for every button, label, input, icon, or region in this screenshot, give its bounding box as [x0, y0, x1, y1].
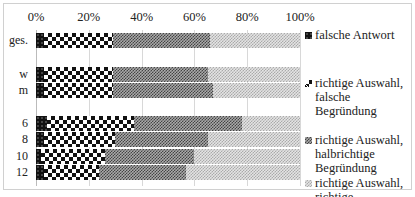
bar-row	[36, 132, 300, 147]
category-label: 6	[0, 116, 28, 131]
bar-segment	[36, 132, 44, 147]
x-tick-label: 40%	[130, 10, 153, 25]
bar-segment	[47, 116, 134, 131]
x-tick-label: 80%	[236, 10, 259, 25]
legend-swatch-icon	[305, 80, 312, 87]
category-label: m	[0, 83, 28, 98]
bar-segment	[113, 83, 213, 98]
bar-segment	[208, 67, 300, 82]
bar-segment	[36, 33, 44, 48]
bar-segment	[44, 67, 113, 82]
bar-segment	[242, 116, 300, 131]
category-label: 12	[0, 165, 28, 180]
category-label: 10	[0, 149, 28, 164]
bar-row	[36, 149, 300, 164]
category-label: 8	[0, 132, 28, 147]
x-tick-label: 0%	[28, 10, 45, 25]
legend-item-falsche-begruendung: richtige Auswahl, falsche Begründung	[305, 76, 413, 118]
bar-row	[36, 67, 300, 82]
legend-label: richtige Auswahl, falsche Begründung	[315, 76, 413, 118]
legend-swatch-icon	[305, 32, 312, 39]
bar-segment	[113, 33, 211, 48]
legend-label: falsche Antwort	[315, 28, 395, 42]
bar-row	[36, 116, 300, 131]
bar-segment	[44, 33, 113, 48]
bar-segment	[210, 33, 300, 48]
x-tick-label: 20%	[77, 10, 100, 25]
legend-item-falsche-antwort: falsche Antwort	[305, 28, 395, 42]
bar-segment	[99, 165, 186, 180]
bar-segment	[36, 83, 44, 98]
bar-segment	[213, 83, 300, 98]
category-label: w	[0, 67, 28, 82]
bar-segment	[36, 116, 47, 131]
legend-swatch-icon	[305, 137, 312, 144]
x-tick-label: 60%	[183, 10, 206, 25]
bar-segment	[36, 165, 44, 180]
legend-swatch-icon	[305, 180, 312, 187]
bar-segment	[44, 132, 115, 147]
bar-segment	[208, 132, 300, 147]
bar-segment	[44, 83, 113, 98]
bar-row	[36, 83, 300, 98]
bar-segment	[186, 165, 300, 180]
bar-segment	[113, 67, 208, 82]
bar-row	[36, 165, 300, 180]
legend-label: richtige Auswahl, richtige Begründung	[315, 176, 413, 197]
legend-item-halbrichtige-begruendung: richtige Auswahl, halbrichtige Begründun…	[305, 133, 403, 175]
category-label: ges.	[0, 33, 28, 48]
bar-segment	[36, 67, 44, 82]
gridline	[300, 30, 301, 186]
x-tick-label: 100%	[285, 10, 314, 25]
bar-segment	[134, 116, 242, 131]
bar-segment	[41, 149, 104, 164]
bar-segment	[115, 132, 207, 147]
legend-label: richtige Auswahl, halbrichtige Begründun…	[315, 133, 403, 175]
bar-segment	[44, 165, 99, 180]
legend-item-richtige-begruendung: richtige Auswahl, richtige Begründung	[305, 176, 413, 197]
bar-row	[36, 33, 300, 48]
bar-segment	[105, 149, 195, 164]
bar-segment	[194, 149, 300, 164]
